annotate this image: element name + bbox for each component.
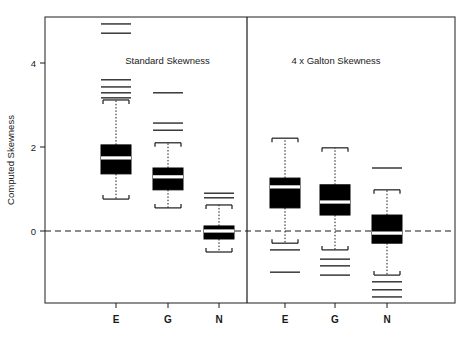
figure-background [0, 0, 472, 338]
box-G-panel2-body [320, 185, 350, 215]
box-N-panel2-body [372, 215, 402, 243]
x-tick-label-E-panel2: E [282, 314, 289, 325]
y-tick-label: 4 [31, 58, 36, 69]
x-tick-label-G-panel1: G [164, 314, 172, 325]
box-E-panel2-body [270, 178, 300, 208]
panel-title-1: Standard Skewness [125, 55, 210, 66]
box-N-panel1-median [204, 229, 234, 232]
y-axis-title: Computed Skewness [5, 115, 16, 205]
y-tick-label: 0 [31, 226, 36, 237]
box-N-panel2-median [372, 232, 402, 235]
x-tick-label-N-panel1: N [215, 314, 222, 325]
plot-canvas: 024Standard SkewnessEGN4 x Galton Skewne… [0, 0, 472, 338]
box-E-panel2-median [270, 185, 300, 188]
x-tick-label-G-panel2: G [331, 314, 339, 325]
x-tick-label-N-panel2: N [383, 314, 390, 325]
x-tick-label-E-panel1: E [113, 314, 120, 325]
panel-title-2: 4 x Galton Skewness [291, 55, 380, 66]
box-E-panel1-median [101, 156, 131, 159]
box-G-panel1-body [153, 168, 183, 190]
box-G-panel2-median [320, 200, 350, 203]
y-tick-label: 2 [31, 142, 36, 153]
box-G-panel1-median [153, 175, 183, 178]
boxplot-figure: 024Standard SkewnessEGN4 x Galton Skewne… [0, 0, 472, 338]
